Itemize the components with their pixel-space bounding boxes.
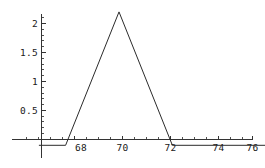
- plot-canvas: 68 70 72 74 76 0.5 1 1.5 2: [0, 0, 265, 168]
- y-tick-label-1: 1: [32, 76, 38, 87]
- y-tick-label-0-5: 0.5: [20, 105, 38, 116]
- y-axis-minor-ticks: [42, 18, 45, 134]
- x-tick-label-72: 72: [164, 142, 176, 153]
- x-tick-label-74: 74: [212, 142, 224, 153]
- y-axis-major-ticks: [42, 24, 46, 111]
- data-series-group: [39, 12, 265, 145]
- x-tick-label-70: 70: [116, 142, 128, 153]
- plot-figure: 68 70 72 74 76 0.5 1 1.5 2: [0, 0, 265, 168]
- x-tick-label-76: 76: [246, 142, 258, 153]
- triangular-membership-curve: [39, 12, 265, 145]
- y-axis-tick-labels: 0.5 1 1.5 2: [20, 18, 38, 116]
- x-tick-label-68: 68: [75, 142, 87, 153]
- x-axis-tick-labels: 68 70 72 74 76: [75, 142, 259, 153]
- x-axis-major-ticks: [75, 136, 253, 140]
- y-tick-label-1-5: 1.5: [20, 47, 38, 58]
- y-tick-label-2: 2: [32, 18, 38, 29]
